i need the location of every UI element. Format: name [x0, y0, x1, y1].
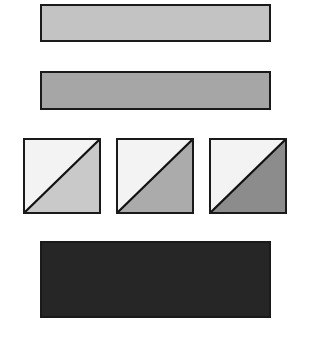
dark-bar: [40, 241, 271, 318]
diagonal-square-light: [23, 138, 101, 214]
diagonal-split-icon: [211, 140, 285, 212]
diagonal-square-dark: [209, 138, 287, 214]
diagonal-split-icon: [118, 140, 192, 212]
diagonal-square-medium: [116, 138, 194, 214]
diagonal-split-icon: [25, 140, 99, 212]
light-gray-bar: [40, 4, 271, 42]
medium-gray-bar: [40, 71, 271, 110]
